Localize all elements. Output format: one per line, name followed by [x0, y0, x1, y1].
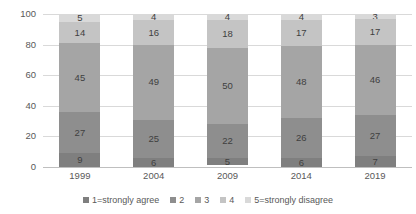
- bar-segment[interactable]: 26: [281, 118, 322, 157]
- bar-column[interactable]: 41850225: [207, 14, 248, 167]
- legend-item[interactable]: 4: [220, 196, 234, 205]
- bar-segment[interactable]: 5: [59, 14, 100, 22]
- y-axis: 020406080100: [0, 14, 36, 167]
- bar-segment[interactable]: 48: [281, 46, 322, 119]
- x-axis-line: [43, 167, 412, 168]
- bar-segment-value-label: 18: [222, 29, 233, 39]
- bar-segment[interactable]: 17: [281, 20, 322, 46]
- bar-segment[interactable]: 45: [59, 43, 100, 112]
- bar-segment-value-label: 26: [296, 133, 307, 143]
- plot-area: 5144527941649256418502254174826631746277: [43, 14, 412, 167]
- bar-segment[interactable]: 7: [355, 156, 396, 167]
- bar-segment[interactable]: 50: [207, 48, 248, 125]
- stacked-bar-chart: 020406080100 514452794164925641850225417…: [0, 0, 416, 214]
- legend-item-label: 2: [179, 196, 184, 205]
- legend-swatch-icon: [170, 197, 176, 203]
- bar-segment[interactable]: 49: [133, 45, 174, 120]
- legend-item[interactable]: 1=strongly agree: [83, 196, 159, 205]
- bar-segment-value-label: 49: [148, 77, 159, 87]
- bar-column[interactable]: 51445279: [59, 14, 100, 167]
- bar-column[interactable]: 31746277: [355, 14, 396, 167]
- bar-segment-value-label: 27: [370, 131, 381, 141]
- y-axis-tick-label: 20: [6, 131, 36, 141]
- bar-segment[interactable]: 14: [59, 22, 100, 43]
- bar-segment-value-label: 14: [75, 28, 86, 38]
- legend-item-label: 3: [204, 196, 209, 205]
- legend-swatch-icon: [220, 197, 226, 203]
- bar-segment[interactable]: 27: [59, 112, 100, 153]
- bar-segment-value-label: 48: [296, 77, 307, 87]
- bar-segment-value-label: 46: [370, 75, 381, 85]
- bar-segment-value-label: 45: [75, 73, 86, 83]
- bar-segment-value-label: 6: [299, 158, 304, 168]
- legend-swatch-icon: [195, 197, 201, 203]
- x-axis-tick-label: 1999: [45, 170, 115, 182]
- bar-segment-value-label: 27: [75, 128, 86, 138]
- legend-item-label: 5=strongly disagree: [254, 196, 333, 205]
- bar-segment[interactable]: 46: [355, 45, 396, 115]
- legend-swatch-icon: [83, 197, 89, 203]
- x-axis-tick-label: 2014: [266, 170, 336, 182]
- bar-segment-value-label: 9: [77, 155, 82, 165]
- y-axis-tick-label: 60: [6, 70, 36, 80]
- bar-segment-value-label: 5: [225, 157, 230, 167]
- bar-segment-value-label: 50: [222, 81, 233, 91]
- legend-item[interactable]: 5=strongly disagree: [245, 196, 333, 205]
- bar-segment-value-label: 25: [148, 134, 159, 144]
- bar-segment-value-label: 17: [370, 27, 381, 37]
- legend-item[interactable]: 2: [170, 196, 184, 205]
- bar-segment[interactable]: 25: [133, 120, 174, 158]
- legend-item[interactable]: 3: [195, 196, 209, 205]
- legend-item-label: 1=strongly agree: [92, 196, 159, 205]
- y-axis-tick-label: 40: [6, 101, 36, 111]
- x-axis-tick-label: 2019: [340, 170, 410, 182]
- y-axis-tick-label: 80: [6, 40, 36, 50]
- bar-segment[interactable]: 5: [207, 158, 248, 166]
- y-axis-tick-label: 100: [6, 9, 36, 19]
- bar-segment-value-label: 7: [372, 157, 377, 167]
- bar-segment-value-label: 22: [222, 136, 233, 146]
- bar-segment[interactable]: 6: [133, 158, 174, 167]
- bar-column[interactable]: 41649256: [133, 14, 174, 167]
- legend-item-label: 4: [229, 196, 234, 205]
- y-axis-tick-label: 0: [6, 162, 36, 172]
- bar-segment[interactable]: 16: [133, 20, 174, 44]
- chart-legend: 1=strongly agree2345=strongly disagree: [0, 193, 416, 207]
- bar-segment[interactable]: 27: [355, 115, 396, 156]
- bar-segment[interactable]: 18: [207, 20, 248, 48]
- x-axis-tick-label: 2009: [193, 170, 263, 182]
- bar-segment[interactable]: 22: [207, 124, 248, 158]
- x-axis-tick-label: 2004: [119, 170, 189, 182]
- bar-segment[interactable]: 6: [281, 158, 322, 167]
- bar-segment[interactable]: 9: [59, 153, 100, 167]
- legend-swatch-icon: [245, 197, 251, 203]
- bar-segment-value-label: 17: [296, 28, 307, 38]
- x-axis: 19992004200920142019: [43, 170, 412, 186]
- bar-column[interactable]: 41748266: [281, 14, 322, 167]
- bar-segment[interactable]: 17: [355, 19, 396, 45]
- bar-segment-value-label: 16: [148, 28, 159, 38]
- bar-segment-value-label: 6: [151, 158, 156, 168]
